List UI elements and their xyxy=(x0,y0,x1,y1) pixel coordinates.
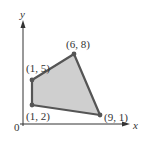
vertex-1-5 xyxy=(30,78,35,83)
x-axis-label: x xyxy=(132,119,138,131)
y-axis-arrow-icon xyxy=(21,20,26,28)
vertex-label-1-2: (1, 2) xyxy=(26,110,50,123)
vertex-label-6-8: (6, 8) xyxy=(66,38,90,51)
vertex-6-8 xyxy=(72,52,77,57)
vertex-label-1-5: (1, 5) xyxy=(26,62,50,75)
vertex-1-2 xyxy=(30,103,35,108)
vertex-label-9-1: (9, 1) xyxy=(104,111,128,124)
origin-label: 0 xyxy=(14,121,20,133)
y-axis-label: y xyxy=(19,8,25,20)
vertex-9-1 xyxy=(98,113,103,118)
feasible-region-plot: y x 0 (1, 5) (6, 8) (1, 2) (9, 1) xyxy=(0,0,146,143)
